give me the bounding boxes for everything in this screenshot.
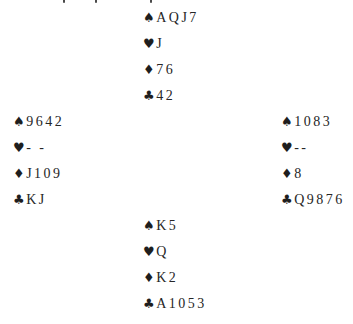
cards-text: Q (156, 244, 169, 259)
diamond-icon: ♦ (13, 166, 26, 181)
north-hearts-line: ♥J (143, 31, 199, 57)
spade-icon: ♠ (143, 10, 156, 25)
south-hearts-line: ♥Q (143, 239, 207, 265)
east-hand: ♠1083 ♥-- ♦8 ♣Q9876 (281, 109, 345, 213)
east-spades-line: ♠1083 (281, 109, 345, 135)
spade-icon: ♠ (13, 114, 26, 129)
cards-text: K5 (156, 218, 178, 233)
heart-icon: ♥ (143, 244, 156, 259)
diamond-icon: ♦ (143, 62, 156, 77)
north-hand: ♠AQJ7 ♥J ♦76 ♣42 (143, 5, 199, 109)
east-diamonds-line: ♦8 (281, 161, 345, 187)
cards-text: KJ (26, 192, 47, 207)
north-diamonds-line: ♦76 (143, 57, 199, 83)
cards-text: AQJ7 (156, 10, 199, 25)
cards-text: Q9876 (294, 192, 345, 207)
heart-icon: ♥ (143, 36, 156, 51)
west-spades-line: ♠9642 (13, 109, 64, 135)
cards-text: -- (294, 140, 308, 155)
cards-text: 76 (156, 62, 175, 77)
south-spades-line: ♠K5 (143, 213, 207, 239)
club-icon: ♣ (143, 296, 156, 311)
south-clubs-line: ♣A1053 (143, 291, 207, 317)
west-diamonds-line: ♦J109 (13, 161, 64, 187)
cards-text: - - (26, 140, 46, 155)
heart-icon: ♥ (13, 140, 26, 155)
south-hand: ♠K5 ♥Q ♦K2 ♣A1053 (143, 213, 207, 317)
cards-text: 42 (156, 88, 175, 103)
north-spades-line: ♠AQJ7 (143, 5, 199, 31)
clipped-text-descender (63, 0, 65, 3)
club-icon: ♣ (13, 192, 26, 207)
spade-icon: ♠ (281, 114, 294, 129)
heart-icon: ♥ (281, 140, 294, 155)
west-hand: ♠9642 ♥- - ♦J109 ♣KJ (13, 109, 64, 213)
cards-text: J109 (26, 166, 62, 181)
north-clubs-line: ♣42 (143, 83, 199, 109)
west-hearts-line: ♥- - (13, 135, 64, 161)
cards-text: K2 (156, 270, 178, 285)
clipped-text-descender (95, 0, 97, 3)
cards-text: J (156, 36, 164, 51)
diamond-icon: ♦ (143, 270, 156, 285)
east-clubs-line: ♣Q9876 (281, 187, 345, 213)
cards-text: A1053 (156, 296, 207, 311)
club-icon: ♣ (143, 88, 156, 103)
east-hearts-line: ♥-- (281, 135, 345, 161)
club-icon: ♣ (281, 192, 294, 207)
cards-text: 8 (294, 166, 304, 181)
diamond-icon: ♦ (281, 166, 294, 181)
clipped-text-descender (150, 0, 152, 3)
south-diamonds-line: ♦K2 (143, 265, 207, 291)
spade-icon: ♠ (143, 218, 156, 233)
west-clubs-line: ♣KJ (13, 187, 64, 213)
cards-text: 1083 (294, 114, 332, 129)
cards-text: 9642 (26, 114, 64, 129)
